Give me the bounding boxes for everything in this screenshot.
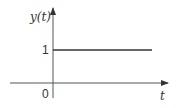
y-tick-1: 1: [42, 43, 49, 57]
origin-label: 0: [42, 87, 49, 101]
step-chart: y(t) 1 0 t: [0, 0, 177, 108]
y-axis-label: y(t): [29, 10, 51, 24]
x-axis-label: t: [160, 89, 165, 103]
